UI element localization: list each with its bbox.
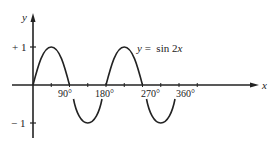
- x-tick-label-180: 180°: [95, 88, 114, 99]
- sine-trough-2: [147, 99, 176, 123]
- y-tick-label-plus-one: + 1: [12, 41, 26, 53]
- y-axis-label: y: [21, 11, 27, 23]
- y-axis-arrow-icon: [31, 13, 36, 22]
- sine-hump-1: [33, 47, 70, 85]
- x-tick-label-270: 270°: [141, 88, 160, 99]
- sine-chart: y x + 1 − 1 90° 180° 270° 360° y = sin 2…: [0, 0, 276, 143]
- y-tick-label-minus-one: − 1: [11, 117, 25, 129]
- x-tick-label-90: 90°: [58, 88, 72, 99]
- x-axis-label: x: [261, 79, 267, 91]
- equation-label: y = sin 2x: [136, 42, 182, 54]
- sine-trough-1: [74, 99, 103, 123]
- x-tick-label-360: 360°: [176, 88, 195, 99]
- x-axis-arrow-icon: [250, 83, 259, 88]
